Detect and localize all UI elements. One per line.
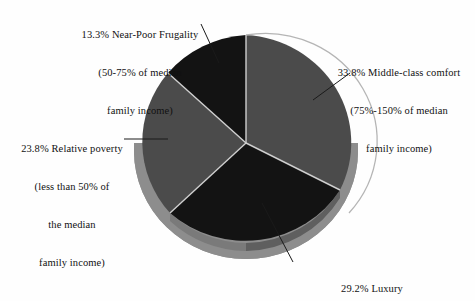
label-near-poor-line3: family income) xyxy=(60,105,220,118)
label-near-poor-line2: (50-75% of median xyxy=(60,67,220,80)
pie-chart-figure: 13.3% Near-Poor Frugality (50-75% of med… xyxy=(0,0,475,301)
label-middle-class-line1: 33.8% Middle-class comfort xyxy=(325,67,473,80)
label-relative-poverty-line3: the median xyxy=(2,219,142,232)
label-middle-class-line3: family income) xyxy=(325,143,473,156)
label-relative-poverty-line2: (less than 50% of xyxy=(2,181,142,194)
label-luxury-line1: 29.2% Luxury xyxy=(282,283,462,296)
label-relative-poverty: 23.8% Relative poverty (less than 50% of… xyxy=(2,118,142,294)
label-relative-poverty-line1: 23.8% Relative poverty xyxy=(2,143,142,156)
label-middle-class-comfort: 33.8% Middle-class comfort (75%-150% of … xyxy=(325,42,473,181)
label-middle-class-line2: (75%-150% of median xyxy=(325,105,473,118)
label-near-poor-line1: 13.3% Near-Poor Frugality xyxy=(60,29,220,42)
label-luxury: 29.2% Luxury (more than 150% of median f… xyxy=(282,258,462,301)
label-relative-poverty-line4: family income) xyxy=(2,257,142,270)
